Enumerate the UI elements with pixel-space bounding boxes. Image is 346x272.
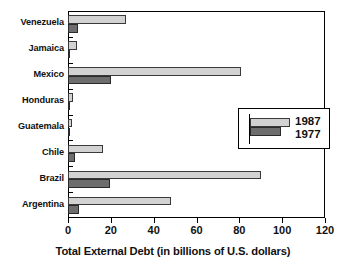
bar-jamaica-1977 xyxy=(68,50,70,59)
x-axis-tick-120 xyxy=(325,218,326,223)
x-axis-tick-label-80: 80 xyxy=(219,224,259,236)
x-axis-tick-60 xyxy=(197,218,198,223)
bar-chart: Latin American Countries With Foreign De… xyxy=(0,0,346,272)
y-axis-tick-1 xyxy=(68,37,73,38)
bar-venezuela-1977 xyxy=(68,24,78,33)
chart-legend: 1987 1977 xyxy=(238,108,330,149)
bar-group-brazil xyxy=(68,166,325,192)
y-axis-tick-0 xyxy=(68,11,73,12)
x-axis-tick-label-100: 100 xyxy=(262,224,302,236)
y-axis-tick-5 xyxy=(68,140,73,141)
y-axis-tick-4 xyxy=(68,115,73,116)
x-axis-title: Total External Debt (in billions of U.S.… xyxy=(0,245,346,257)
x-axis-tick-100 xyxy=(282,218,283,223)
bar-venezuela-1987 xyxy=(68,15,126,24)
y-axis-label-venezuela: Venezuela xyxy=(0,17,64,27)
bar-group-argentina xyxy=(68,192,325,218)
bar-jamaica-1987 xyxy=(68,41,77,50)
x-axis-tick-0 xyxy=(68,218,69,223)
y-axis-label-jamaica: Jamaica xyxy=(0,43,64,53)
x-axis-tick-label-0: 0 xyxy=(48,224,88,236)
y-axis-label-guatemala: Guatemala xyxy=(0,121,64,131)
x-axis-tick-80 xyxy=(239,218,240,223)
y-axis-label-brazil: Brazil xyxy=(0,173,64,183)
bar-honduras-1977 xyxy=(68,102,70,111)
bar-guatemala-1977 xyxy=(68,128,70,137)
y-axis-tick-7 xyxy=(68,192,73,193)
y-axis-label-chile: Chile xyxy=(0,147,64,157)
bar-argentina-1987 xyxy=(68,197,171,206)
bar-mexico-1987 xyxy=(68,67,241,76)
x-axis-tick-40 xyxy=(154,218,155,223)
bar-brazil-1977 xyxy=(68,179,110,188)
x-axis-tick-20 xyxy=(111,218,112,223)
bar-honduras-1987 xyxy=(68,93,73,102)
bar-mexico-1977 xyxy=(68,76,111,85)
y-axis-label-argentina: Argentina xyxy=(0,199,64,209)
y-axis-label-honduras: Honduras xyxy=(0,95,64,105)
bar-guatemala-1987 xyxy=(68,119,72,128)
x-axis-tick-label-120: 120 xyxy=(305,224,345,236)
x-axis-tick-label-40: 40 xyxy=(134,224,174,236)
x-axis-tick-label-20: 20 xyxy=(91,224,131,236)
legend-label-1987: 1987 xyxy=(295,115,321,127)
bar-group-jamaica xyxy=(68,37,325,63)
y-axis-tick-6 xyxy=(68,166,73,167)
x-axis-tick-label-60: 60 xyxy=(177,224,217,236)
legend-swatch-1977 xyxy=(250,127,281,136)
y-axis-label-mexico: Mexico xyxy=(0,69,64,79)
bar-argentina-1977 xyxy=(68,205,79,214)
bar-brazil-1987 xyxy=(68,171,261,180)
y-axis-tick-3 xyxy=(68,89,73,90)
legend-swatch-1987 xyxy=(250,118,290,127)
bar-chile-1987 xyxy=(68,145,103,154)
y-axis-tick-2 xyxy=(68,63,73,64)
bar-group-mexico xyxy=(68,63,325,89)
bar-chile-1977 xyxy=(68,153,75,162)
bar-group-venezuela xyxy=(68,11,325,37)
legend-label-1977: 1977 xyxy=(295,128,321,140)
